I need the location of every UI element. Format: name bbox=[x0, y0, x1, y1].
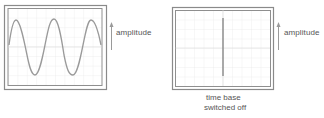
sine-wave-display bbox=[0, 0, 110, 92]
oscilloscope-screen-sine bbox=[0, 0, 110, 92]
caption-line-1: time base bbox=[204, 93, 246, 103]
oscilloscope-screen-timebase-off bbox=[168, 0, 278, 92]
amplitude-arrow-icon bbox=[275, 20, 283, 52]
amplitude-label-left: amplitude bbox=[116, 28, 152, 37]
caption-line-2: switched off bbox=[204, 103, 246, 113]
timebase-caption: time base switched off bbox=[204, 93, 246, 113]
amplitude-arrow-icon bbox=[108, 20, 116, 52]
amplitude-label-right: amplitude bbox=[284, 28, 320, 37]
vertical-line-display bbox=[168, 0, 278, 92]
